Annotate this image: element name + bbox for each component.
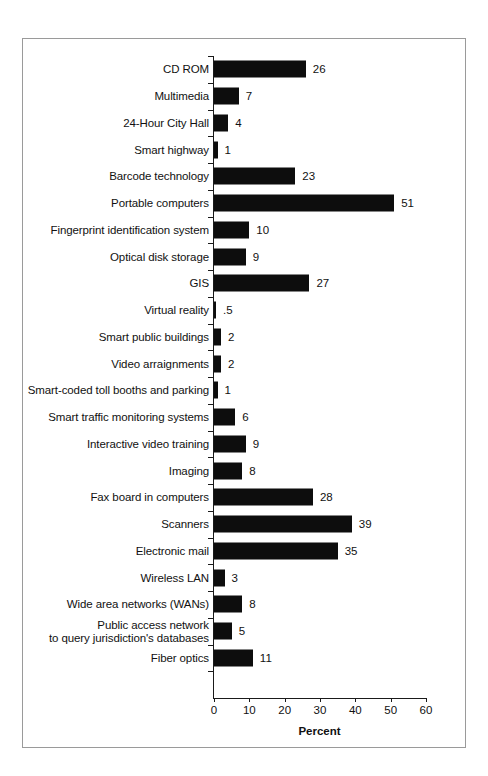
bar-value-label: 6 (242, 411, 248, 423)
bar (214, 114, 228, 131)
bar-category-label: Portable computers (111, 197, 209, 210)
bar-category-label: CD ROM (163, 63, 209, 76)
bar (214, 409, 235, 426)
bar-value-label: 9 (253, 251, 259, 263)
bar-row: Imaging8 (23, 457, 467, 484)
bar-value-label: 2 (228, 331, 234, 343)
y-axis-tick (208, 270, 214, 271)
bar-category-label: Scanners (161, 518, 209, 531)
bar (214, 516, 352, 533)
bar-row: Optical disk storage9 (23, 243, 467, 270)
y-axis-tick (208, 297, 214, 298)
x-axis-tick (426, 698, 427, 702)
bar-value-label: 26 (313, 63, 326, 75)
x-axis-tick-label: 30 (314, 704, 327, 716)
x-axis-tick (391, 698, 392, 702)
bar-value-label: .5 (223, 304, 233, 316)
bar (214, 328, 221, 345)
x-axis-tick-label: 50 (384, 704, 397, 716)
y-axis-tick (208, 243, 214, 244)
y-axis-tick (208, 324, 214, 325)
bar-value-label: 10 (256, 224, 269, 236)
x-axis-tick (320, 698, 321, 702)
y-axis-tick (208, 377, 214, 378)
bar-row: Scanners39 (23, 511, 467, 538)
bar-row: Video arraignments2 (23, 350, 467, 377)
bar-value-label: 7 (246, 90, 252, 102)
bar (214, 61, 306, 78)
bar-row: Smart public buildings2 (23, 324, 467, 351)
bar-category-label: Smart-coded toll booths and parking (28, 384, 209, 397)
y-axis-tick (208, 56, 214, 57)
x-axis-tick (249, 698, 250, 702)
bar-category-label: Fax board in computers (90, 491, 209, 504)
y-axis-tick (208, 163, 214, 164)
bar-value-label: 1 (225, 384, 231, 396)
x-axis-tick-label: 20 (278, 704, 291, 716)
bar-value-label: 4 (235, 117, 241, 129)
bar-row: Electronic mail35 (23, 538, 467, 565)
y-axis-tick (208, 350, 214, 351)
bar-row: 24-Hour City Hall4 (23, 110, 467, 137)
bar (214, 623, 232, 640)
bar-value-label: 23 (302, 170, 315, 182)
y-axis-tick (208, 404, 214, 405)
bar (214, 382, 218, 399)
bar (214, 275, 309, 292)
y-axis-tick (208, 136, 214, 137)
x-axis-tick-label: 60 (420, 704, 433, 716)
bar-value-label: 8 (249, 465, 255, 477)
bar-category-label: Public access network to query jurisdict… (49, 619, 209, 644)
bar-value-label: 35 (345, 545, 358, 557)
bar-row: Barcode technology23 (23, 163, 467, 190)
bar-row: Wide area networks (WANs)8 (23, 591, 467, 618)
y-axis-tick (208, 671, 214, 672)
bar (214, 489, 313, 506)
bar-row: Fiber optics11 (23, 645, 467, 672)
bar-row: Public access network to query jurisdict… (23, 618, 467, 645)
bar-row: Smart-coded toll booths and parking1 (23, 377, 467, 404)
bar-row: CD ROM26 (23, 56, 467, 83)
bar-category-label: Barcode technology (109, 170, 209, 183)
bar-value-label: 2 (228, 358, 234, 370)
bar-value-label: 9 (253, 438, 259, 450)
bar-category-label: Fingerprint identification system (51, 224, 209, 237)
bar (214, 168, 295, 185)
bar (214, 542, 338, 559)
y-axis-tick (208, 538, 214, 539)
bar (214, 141, 218, 158)
y-axis-tick (208, 217, 214, 218)
bar-category-label: Electronic mail (136, 545, 209, 558)
bar-value-label: 27 (316, 277, 329, 289)
bar (214, 596, 242, 613)
bar-category-label: Wireless LAN (141, 571, 209, 584)
bar-category-label: Smart traffic monitoring systems (48, 411, 209, 424)
chart-plot-area: CD ROM26Multimedia724-Hour City Hall4Sma… (23, 39, 467, 749)
bar (214, 462, 242, 479)
bar-category-label: Smart highway (134, 143, 209, 156)
bar (214, 302, 216, 319)
bar-row: Wireless LAN3 (23, 564, 467, 591)
bar-category-label: Virtual reality (144, 304, 209, 317)
bar-category-label: Fiber optics (151, 652, 209, 665)
bar-category-label: Video arraignments (111, 357, 209, 370)
y-axis-tick (208, 110, 214, 111)
bar-row: Interactive video training9 (23, 431, 467, 458)
bar (214, 88, 239, 105)
bar-value-label: 1 (225, 144, 231, 156)
x-axis-tick (285, 698, 286, 702)
bar-category-label: Wide area networks (WANs) (67, 598, 209, 611)
y-axis-tick (208, 564, 214, 565)
y-axis-tick (208, 645, 214, 646)
bar-row: Smart traffic monitoring systems6 (23, 404, 467, 431)
y-axis-tick (208, 190, 214, 191)
bar-category-label: Smart public buildings (99, 331, 209, 344)
y-axis-tick (208, 511, 214, 512)
bar-row: Multimedia7 (23, 83, 467, 110)
bar-value-label: 28 (320, 491, 333, 503)
y-axis-tick (208, 457, 214, 458)
bar-category-label: Imaging (169, 464, 209, 477)
bar (214, 649, 253, 666)
bar-row: Virtual reality.5 (23, 297, 467, 324)
bar-value-label: 3 (232, 572, 238, 584)
